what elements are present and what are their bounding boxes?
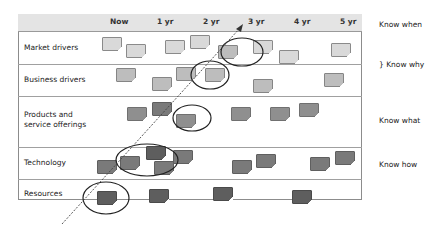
ellipse-business: [191, 61, 229, 89]
ellipse-technology: [116, 144, 178, 176]
overlay-graphics: [0, 0, 436, 230]
ellipse-products: [173, 105, 211, 131]
trajectory-arrow: [62, 28, 240, 224]
ellipse-resources: [83, 182, 129, 214]
